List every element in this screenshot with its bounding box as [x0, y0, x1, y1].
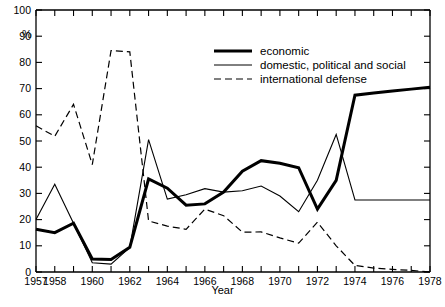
svg-text:50: 50 — [19, 135, 31, 147]
svg-text:1974: 1974 — [343, 275, 367, 287]
svg-text:1964: 1964 — [156, 275, 180, 287]
legend-label: economic — [260, 44, 309, 58]
svg-text:1978: 1978 — [418, 275, 442, 287]
legend-item-international-defense: international defense — [213, 72, 406, 86]
svg-text:1966: 1966 — [193, 275, 217, 287]
svg-text:1972: 1972 — [306, 275, 330, 287]
svg-text:60: 60 — [19, 108, 31, 120]
legend-label: domestic, political and social — [260, 58, 406, 72]
svg-text:1976: 1976 — [381, 275, 405, 287]
series-line-economic — [36, 87, 430, 259]
svg-text:1958: 1958 — [43, 275, 67, 287]
legend-item-economic: economic — [213, 44, 406, 58]
svg-text:80: 80 — [19, 56, 31, 68]
svg-text:70: 70 — [19, 82, 31, 94]
y-axis-tick-labels: 0102030405060708090100 — [13, 4, 31, 278]
legend-key-dashed — [213, 73, 253, 85]
x-axis-tick-labels: 1957195819601962196419661968197019721974… — [24, 275, 442, 287]
svg-text:1962: 1962 — [118, 275, 142, 287]
svg-text:20: 20 — [19, 213, 31, 225]
legend-key-thin-solid — [213, 59, 253, 71]
svg-text:30: 30 — [19, 187, 31, 199]
legend-item-domestic-political-social: domestic, political and social — [213, 58, 406, 72]
legend-key-thick-solid — [213, 45, 253, 57]
series-line-domestic-political-and-social — [36, 134, 430, 264]
svg-text:1970: 1970 — [268, 275, 292, 287]
svg-text:100: 100 — [13, 4, 31, 16]
line-chart: % Year 0102030405060708090100 1957195819… — [0, 0, 445, 307]
svg-text:40: 40 — [19, 161, 31, 173]
svg-text:1968: 1968 — [231, 275, 255, 287]
legend: economic domestic, political and social … — [213, 44, 406, 86]
legend-label: international defense — [260, 72, 367, 86]
svg-text:10: 10 — [19, 239, 31, 251]
svg-text:1960: 1960 — [81, 275, 105, 287]
svg-text:90: 90 — [19, 30, 31, 42]
